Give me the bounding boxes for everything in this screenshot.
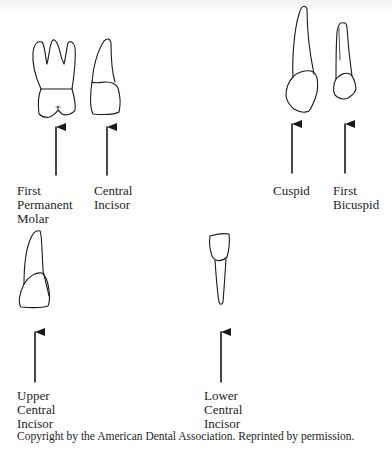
label-first-bicuspid: First Bicuspid [333, 184, 379, 212]
arrows [35, 124, 345, 382]
upper-incisor-tooth-icon [19, 231, 49, 308]
lower-incisor-tooth-icon [210, 234, 230, 305]
label-first-permanent-molar: First Permanent Molar [17, 184, 73, 226]
label-central-incisor: Central Incisor [94, 184, 132, 212]
incisor-tooth-icon [91, 39, 120, 115]
label-cuspid: Cuspid [273, 184, 310, 198]
molar-tooth-icon [33, 40, 75, 118]
cuspid-tooth-icon [286, 6, 318, 112]
label-lower-central-incisor: Lower Central Incisor [204, 389, 242, 431]
label-upper-central-incisor: Upper Central Incisor [17, 389, 55, 431]
copyright-caption: Copyright by the American Dental Associa… [17, 430, 354, 442]
bicuspid-tooth-icon [334, 23, 356, 99]
